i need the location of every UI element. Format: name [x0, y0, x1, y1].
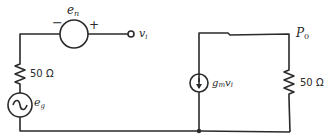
load-resistor-icon — [284, 66, 294, 98]
noise-plus-sign: + — [89, 18, 99, 32]
input-top-wire — [20, 34, 60, 62]
noise-minus-sign: − — [52, 15, 63, 30]
ac-sine-icon — [13, 101, 27, 110]
output-power-label: P0 — [295, 26, 309, 41]
noise-source-label: en — [67, 3, 79, 18]
signal-source-label: eg — [34, 96, 46, 110]
load-resistor-label: 50 Ω — [300, 77, 324, 88]
load-bottom-wire — [289, 98, 290, 132]
current-source-label: gmvi — [212, 77, 233, 89]
ground-wire — [20, 117, 290, 132]
noise-source-icon — [60, 20, 88, 48]
input-node-label: vi — [139, 27, 147, 41]
source-resistor-label: 50 Ω — [30, 68, 54, 79]
input-terminal-icon — [128, 31, 134, 37]
circuit-diagram: − + en vi 50 Ω eg gmvi 50 Ω P0 — [0, 0, 332, 140]
source-resistor-icon — [15, 62, 25, 88]
ground-junction-dot — [197, 129, 201, 133]
current-arrow-head-icon — [196, 84, 202, 89]
output-top-wire — [199, 33, 289, 82]
